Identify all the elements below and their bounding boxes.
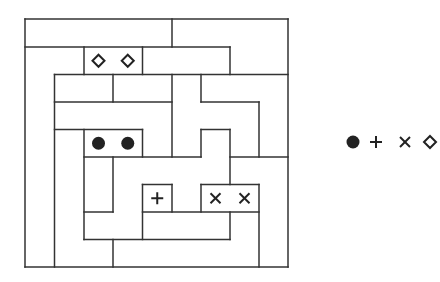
diamond-symbol: [122, 55, 134, 67]
legend-plus-icon: [370, 136, 382, 148]
dot-symbol: [92, 137, 105, 150]
legend-diamond-icon: [424, 136, 436, 148]
symbol-legend: [347, 136, 437, 149]
cross-symbol: [240, 193, 250, 203]
plus-symbol: [151, 192, 163, 204]
diamond-symbol: [93, 55, 105, 67]
legend-cross-icon: [400, 137, 410, 147]
cross-symbol: [211, 193, 221, 203]
puzzle-canvas: [0, 0, 440, 282]
legend-dot-icon: [347, 136, 360, 149]
dot-symbol: [121, 137, 134, 150]
puzzle-grid-walls: [25, 19, 288, 267]
